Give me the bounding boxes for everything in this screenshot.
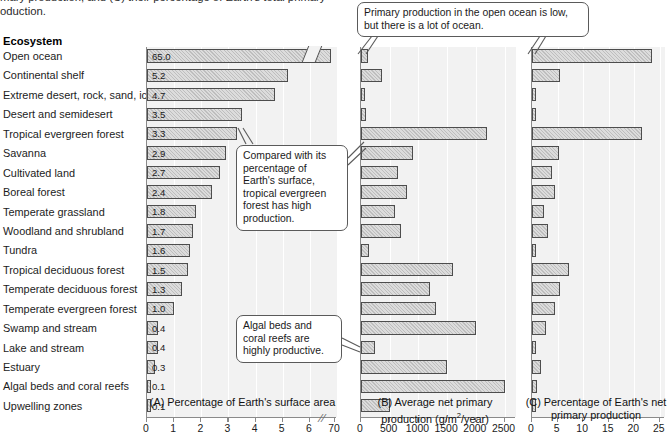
algal-beds-callout: Algal beds and coral reefs are highly pr… — [236, 315, 342, 363]
tropical-forest-callout: Compared with its percentage of Earth's … — [236, 145, 348, 231]
open-ocean-callout: Primary production in the open ocean is … — [357, 2, 589, 37]
